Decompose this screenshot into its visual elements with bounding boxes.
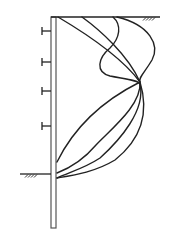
strut-4 (42, 122, 51, 130)
retaining-wall-diagram (0, 0, 174, 240)
strut-2 (42, 58, 51, 66)
ground-hatch-icon (143, 18, 155, 21)
strut-1 (42, 27, 51, 35)
strut-3 (42, 87, 51, 95)
curve-1-deflection (57, 17, 140, 162)
retaining-wall (51, 17, 56, 228)
curve-3-deflection (57, 17, 141, 178)
excavation-hatch-icon (25, 175, 37, 178)
curve-2-deflection (57, 17, 140, 173)
